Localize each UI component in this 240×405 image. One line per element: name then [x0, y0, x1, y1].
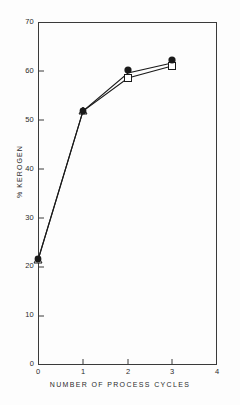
open-square-marker [125, 75, 132, 82]
filled-circle-marker [168, 56, 175, 63]
x-tick-label: 0 [28, 368, 48, 376]
x-tick-label: 1 [73, 368, 93, 376]
filled-circle-marker [35, 256, 42, 263]
x-tick-label: 4 [207, 368, 227, 376]
x-axis-ticks [83, 359, 172, 365]
x-axis-title: NUMBER OF PROCESS CYCLES [0, 381, 240, 388]
series-open-line [38, 66, 172, 260]
x-axis-tick-labels: 0 1 2 3 4 [0, 368, 240, 380]
y-axis-title: % KEROGEN [16, 112, 23, 232]
plot-area [0, 0, 240, 405]
filled-markers [35, 56, 176, 262]
x-tick-label: 3 [162, 368, 182, 376]
y-axis-ticks [38, 71, 44, 316]
filled-circle-marker [124, 66, 131, 73]
chart-figure: 70 60 50 40 30 20 10 0 [0, 0, 240, 405]
series-filled-line [38, 63, 172, 260]
filled-circle-marker [80, 108, 87, 115]
x-tick-label: 2 [118, 368, 138, 376]
